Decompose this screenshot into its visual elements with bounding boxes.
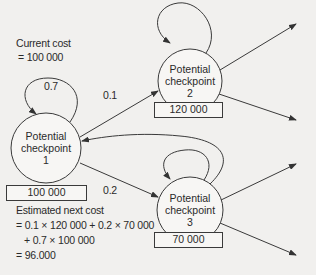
node-3-line1: Potential	[170, 192, 211, 204]
node-3-label: Potential checkpoint 3	[157, 184, 223, 236]
edge-label-1-to-2: 0.1	[103, 89, 117, 101]
edge-label-1-to-3: 0.2	[103, 184, 117, 196]
node-3-line2: checkpoint	[165, 204, 215, 216]
current-cost-value: = 100 000	[18, 51, 63, 63]
node-2-line1: Potential	[170, 63, 211, 75]
estimated-next-cost-formula-1: = 0.1 × 120 000 + 0.2 × 70 000	[16, 219, 154, 231]
node-3-out-upper-arrow	[221, 164, 296, 200]
estimated-next-cost-formula-2: + 0.7 × 100 000	[24, 234, 95, 246]
node-3-out-lower-arrow	[220, 223, 296, 255]
node-1-to-node-2-arrow	[80, 91, 158, 137]
node-3-value-box: 70 000	[154, 232, 223, 248]
node-1-line3: 1	[43, 154, 49, 166]
estimated-next-cost-result: = 96.000	[16, 249, 56, 261]
node-1-line2: checkpoint	[21, 142, 71, 154]
node-2-label: Potential checkpoint 2	[158, 55, 222, 107]
node-2-line2: checkpoint	[165, 75, 215, 87]
node-2-self-loop-arrow	[158, 3, 212, 53]
node-2-out-upper-arrow	[220, 24, 296, 70]
current-cost-label: Current cost	[16, 37, 71, 49]
node-3-to-node-1-arrow	[82, 134, 223, 184]
node-2-line3: 2	[187, 87, 193, 99]
node-2-out-lower-arrow	[219, 94, 296, 120]
estimated-next-cost-label: Estimated next cost	[16, 204, 104, 216]
node-2-value-box: 120 000	[154, 102, 223, 118]
node-3-self-loop-arrow	[164, 150, 209, 180]
node-1-value-box: 100 000	[6, 185, 87, 201]
node-1-label: Potential checkpoint 1	[11, 120, 81, 176]
node-1-line1: Potential	[26, 130, 67, 142]
node-1-to-node-3-arrow	[80, 163, 158, 197]
edge-label-1-to-1: 0.7	[44, 80, 58, 92]
node-3-line3: 3	[187, 216, 193, 228]
